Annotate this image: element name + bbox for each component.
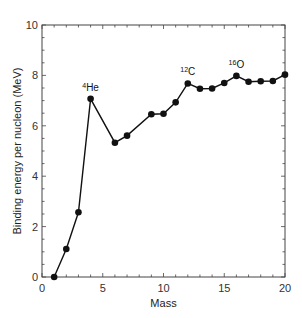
data-point — [148, 111, 155, 118]
y-tick-label: 6 — [32, 120, 38, 132]
x-tick-label: 15 — [218, 282, 230, 294]
axes — [42, 25, 285, 277]
x-axis-label: Mass — [150, 297, 177, 309]
y-axis-label: Binding energy per nucleon (MeV) — [11, 68, 23, 235]
data-point — [185, 80, 192, 87]
data-point — [124, 132, 131, 139]
plot-frame — [42, 25, 285, 277]
y-tick-label: 4 — [32, 170, 38, 182]
y-tick-label: 8 — [32, 69, 38, 81]
data-point — [257, 78, 264, 85]
data-point — [245, 78, 252, 85]
data-point — [160, 110, 167, 117]
annotations: 4He12C16O — [82, 59, 244, 93]
data-point — [63, 246, 70, 253]
nuclide-annotation: 12C — [180, 66, 195, 77]
data-point — [75, 209, 82, 216]
data-point — [270, 78, 277, 85]
data-point — [233, 73, 240, 80]
data-series — [51, 71, 288, 280]
series-line — [54, 75, 285, 277]
x-tick-label: 5 — [100, 282, 106, 294]
nuclide-annotation: 4He — [82, 82, 99, 93]
nuclide-annotation: 16O — [229, 59, 245, 70]
y-tick-label: 0 — [32, 271, 38, 283]
data-point — [221, 80, 228, 87]
binding-energy-chart: 051015200246810 4He12C16O Mass Binding e… — [0, 0, 302, 318]
data-point — [51, 274, 58, 281]
y-tick-label: 10 — [26, 19, 38, 31]
ticks: 051015200246810 — [26, 19, 291, 294]
data-point — [209, 85, 216, 92]
data-point — [197, 85, 204, 92]
data-point — [172, 99, 179, 106]
data-point — [112, 139, 119, 146]
x-tick-label: 20 — [279, 282, 291, 294]
data-point — [87, 96, 94, 103]
x-tick-label: 10 — [157, 282, 169, 294]
y-tick-label: 2 — [32, 221, 38, 233]
data-point — [282, 71, 289, 78]
x-tick-label: 0 — [39, 282, 45, 294]
